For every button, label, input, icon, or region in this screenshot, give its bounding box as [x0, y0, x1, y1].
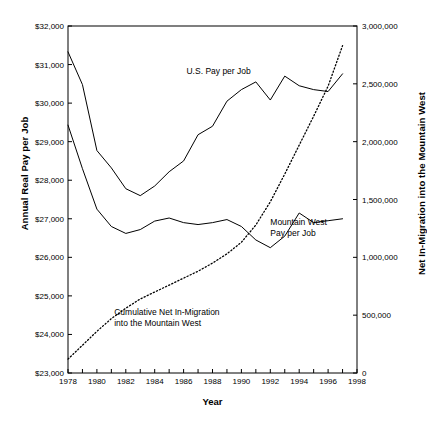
- series-line: [68, 46, 343, 359]
- figure-caption: [6, 412, 419, 423]
- series-line: [68, 125, 343, 248]
- series-line: [68, 52, 343, 196]
